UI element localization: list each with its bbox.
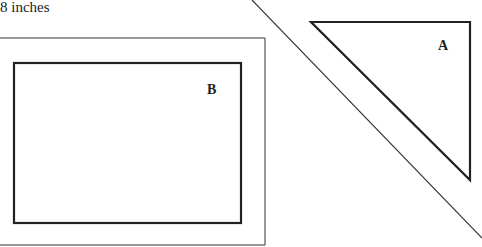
diagonal-line — [252, 0, 482, 238]
rectangle-label: B — [207, 82, 216, 98]
diagram-canvas — [0, 0, 482, 247]
triangle-label: A — [438, 38, 448, 54]
outer-frame — [0, 38, 265, 245]
